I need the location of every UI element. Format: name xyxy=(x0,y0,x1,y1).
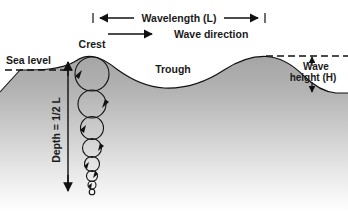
wave-diagram-canvas: Wavelength (L) Wave direction Sea level … xyxy=(0,0,348,212)
crest-annotation: Crest xyxy=(79,38,106,50)
sea-level-label: Sea level xyxy=(6,54,51,66)
trough-annotation: Trough xyxy=(155,63,191,75)
crest-label: Crest xyxy=(79,38,106,50)
wave-height-label-line1: Wave xyxy=(303,61,329,72)
wave-height-label-line2: height (H) xyxy=(290,72,337,83)
wave-direction-indicator: Wave direction xyxy=(108,28,248,40)
wavelength-measure: Wavelength (L) xyxy=(93,12,265,24)
wavelength-label: Wavelength (L) xyxy=(142,12,217,24)
depth-label: Depth = 1/2 L xyxy=(50,97,62,163)
wave-diagram-svg: Wavelength (L) Wave direction Sea level … xyxy=(0,0,348,212)
trough-label: Trough xyxy=(155,63,191,75)
wave-direction-label: Wave direction xyxy=(174,28,248,40)
